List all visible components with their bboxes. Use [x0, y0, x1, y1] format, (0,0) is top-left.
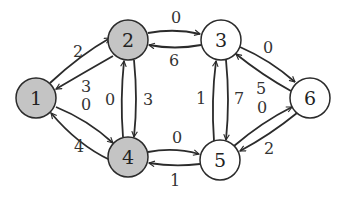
weight-5-to-4: 1	[170, 171, 180, 190]
weight-4-to-2: 0	[105, 90, 115, 109]
node-1: 1	[16, 78, 56, 118]
weight-6-to-3: 5	[256, 79, 266, 98]
edge-5-to-3	[213, 61, 216, 141]
edge-4-to-5	[148, 150, 199, 154]
node-1-label: 1	[30, 87, 42, 109]
weight-1-to-2: 2	[73, 42, 83, 61]
node-6-label: 6	[304, 87, 316, 109]
weight-1-to-4: 0	[81, 95, 91, 114]
weight-2-to-4: 3	[143, 90, 153, 109]
edge-2-to-3	[148, 31, 200, 34]
edge-5-to-4	[149, 163, 200, 165]
node-6: 6	[290, 78, 330, 118]
node-4-label: 4	[122, 146, 134, 168]
weight-4-to-1: 4	[74, 137, 84, 156]
weight-3-to-6: 0	[263, 38, 273, 57]
node-2: 2	[108, 20, 148, 60]
weight-5-to-3: 1	[196, 89, 206, 108]
weight-4-to-5: 0	[172, 128, 182, 147]
edge-2-to-4	[134, 60, 136, 137]
weight-2-to-1: 3	[81, 77, 91, 96]
node-3-label: 3	[215, 29, 227, 51]
node-3: 3	[201, 20, 241, 60]
node-5: 5	[200, 140, 240, 180]
edge-3-to-2	[149, 45, 201, 48]
weight-3-to-2: 6	[169, 51, 179, 70]
node-2-label: 2	[122, 29, 134, 51]
weight-6-to-5: 2	[264, 139, 274, 158]
weight-3-to-5: 7	[234, 89, 244, 108]
directed-graph: 2 3 0 4 0 6 0 3 1 7 0 5 0 1 0 2 1 2 3 4 …	[0, 0, 347, 201]
edge-4-to-2	[122, 61, 124, 137]
node-4: 4	[108, 137, 148, 177]
node-5-label: 5	[214, 149, 226, 171]
weight-5-to-6: 0	[257, 98, 267, 117]
edge-3-to-5	[226, 60, 228, 140]
weight-2-to-3: 0	[171, 8, 181, 27]
